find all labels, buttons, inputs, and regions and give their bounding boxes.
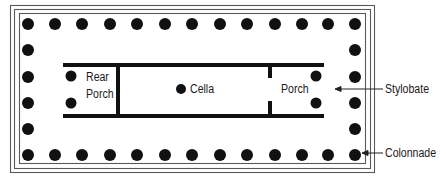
stylobate-label: Stylobate xyxy=(385,82,429,96)
rear-porch-label-line2: Porch xyxy=(86,87,114,101)
porch-wall-top-stub xyxy=(268,63,272,78)
leader-arrows xyxy=(335,87,383,156)
temple-floor-plan xyxy=(0,0,440,180)
porch-column xyxy=(311,98,322,109)
porch-label: Porch xyxy=(281,82,309,96)
colonnade-arrowhead xyxy=(362,151,368,156)
rear-porch-column xyxy=(66,71,77,82)
cella-label: Cella xyxy=(190,82,214,96)
porch-column xyxy=(311,71,322,82)
rear-porch-wall xyxy=(116,63,120,118)
cella-column xyxy=(176,84,186,94)
rear-porch-column xyxy=(66,98,77,109)
stylobate-arrowhead xyxy=(335,87,341,92)
rear-porch-label-line1: Rear xyxy=(86,70,109,84)
cella-top-wall xyxy=(63,63,324,67)
porch-wall-bottom-stub xyxy=(268,101,272,118)
cella-bottom-wall xyxy=(63,114,324,118)
colonnade-label: Colonnade xyxy=(385,146,436,160)
